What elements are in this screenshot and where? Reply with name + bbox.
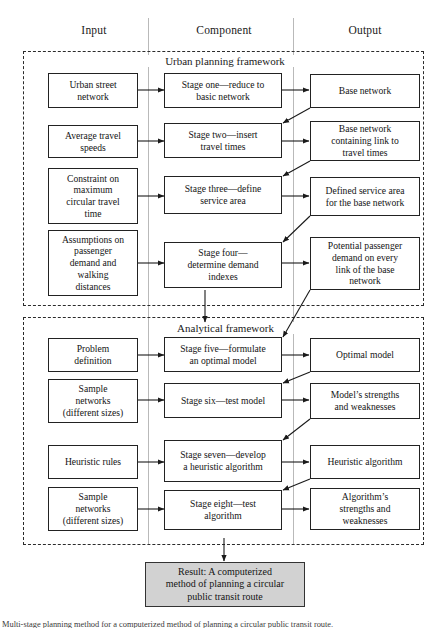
box-text: Assumptions onpassengerdemand andwalking… [52,234,134,293]
box-text: Heuristic rules [52,456,134,468]
column-header-output: Output [310,24,420,36]
box-text: Stage one—reduce tobasic network [168,79,278,102]
box-text: Model’s strengthsand weaknesses [314,389,416,412]
box-text: Stage four—determine demandindexes [168,247,278,282]
box-text: Algorithm’sstrengths andweaknesses [314,491,416,526]
box-text: Samplenetworks(different sizes) [52,491,134,526]
figure-canvas: Input Component Output Urban planning fr… [0,0,445,628]
output-box-heuristic-algorithm[interactable]: Heuristic algorithm [310,445,420,479]
input-box-sample-networks-1[interactable]: Samplenetworks(different sizes) [48,379,138,423]
box-text: Result: A computerizedmethod of planning… [149,566,301,603]
output-box-algorithm-strengths-weaknesses[interactable]: Algorithm’sstrengths andweaknesses [310,488,420,530]
component-box-stage-five[interactable]: Stage five—formulatean optimal model [164,337,282,372]
box-text: Base networkcontaining link totravel tim… [314,123,416,158]
box-text: Stage five—formulatean optimal model [168,343,278,366]
box-text: Defined service areafor the base network [314,185,416,208]
output-box-base-network[interactable]: Base network [310,74,420,108]
box-text: Stage six—test model [168,395,278,407]
input-box-heuristic-rules[interactable]: Heuristic rules [48,445,138,479]
box-text: Stage three—defineservice area [168,183,278,206]
output-box-potential-passenger-demand[interactable]: Potential passengerdemand on everylink o… [310,237,420,290]
box-text: Base network [314,85,416,97]
input-box-urban-street-network[interactable]: Urban streetnetwork [48,73,138,108]
box-text: Problemdefinition [52,343,134,366]
box-text: Average travelspeeds [52,130,134,153]
figure-caption: Multi-stage planning method for a comput… [2,620,445,628]
column-header-input: Input [48,24,140,36]
input-box-assumptions-demand-walking[interactable]: Assumptions onpassengerdemand andwalking… [48,230,138,296]
output-box-base-network-with-travel-times[interactable]: Base networkcontaining link totravel tim… [310,121,420,161]
box-text: Urban streetnetwork [52,79,134,102]
component-box-stage-seven[interactable]: Stage seven—developa heuristic algorithm [164,440,282,482]
input-box-problem-definition[interactable]: Problemdefinition [48,338,138,372]
box-text: Heuristic algorithm [314,456,416,468]
box-text: Stage seven—developa heuristic algorithm [168,449,278,472]
component-box-stage-six[interactable]: Stage six—test model [164,383,282,418]
result-box[interactable]: Result: A computerizedmethod of planning… [145,562,305,607]
box-text: Samplenetworks(different sizes) [52,383,134,418]
box-text: Constraint onmaximumcircular traveltime [52,173,134,220]
component-box-stage-eight[interactable]: Stage eight—testalgorithm [164,490,282,530]
output-box-defined-service-area[interactable]: Defined service areafor the base network [310,177,420,216]
box-text: Optimal model [314,349,416,361]
box-text: Stage two—inserttravel times [168,129,278,152]
column-header-component: Component [165,24,283,36]
input-box-constraint-max-circular-travel-time[interactable]: Constraint onmaximumcircular traveltime [48,168,138,224]
box-text: Potential passengerdemand on everylink o… [314,240,416,287]
component-box-stage-three[interactable]: Stage three—defineservice area [164,176,282,214]
component-box-stage-two[interactable]: Stage two—inserttravel times [164,123,282,158]
component-box-stage-four[interactable]: Stage four—determine demandindexes [164,242,282,288]
output-box-optimal-model[interactable]: Optimal model [310,338,420,372]
component-box-stage-one[interactable]: Stage one—reduce tobasic network [164,73,282,108]
output-box-model-strengths-weaknesses[interactable]: Model’s strengthsand weaknesses [310,383,420,419]
frame-title-urban-planning: Urban planning framework [148,55,302,67]
input-box-sample-networks-2[interactable]: Samplenetworks(different sizes) [48,487,138,531]
box-text: Stage eight—testalgorithm [168,498,278,521]
frame-title-analytical: Analytical framework [155,322,296,334]
input-box-average-travel-speeds[interactable]: Average travelspeeds [48,125,138,158]
